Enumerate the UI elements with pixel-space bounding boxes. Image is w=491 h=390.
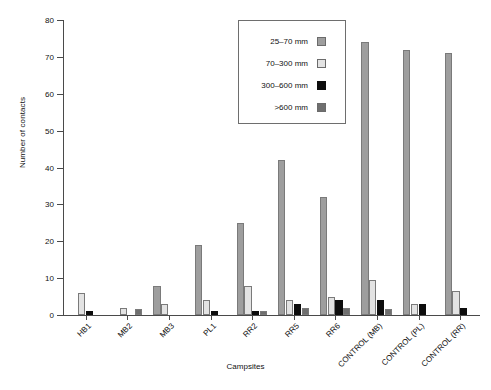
y-axis-tick bbox=[57, 204, 63, 205]
legend-swatch-icon bbox=[317, 103, 326, 112]
legend-swatch-icon bbox=[317, 81, 326, 90]
legend-item-label: >600 mm bbox=[239, 103, 317, 112]
y-axis-tick bbox=[57, 241, 63, 242]
y-axis-tick-label: 70 bbox=[14, 53, 54, 62]
y-axis-tick bbox=[57, 131, 63, 132]
legend-item: 25–70 mm bbox=[239, 30, 345, 52]
y-axis-tick-label: 40 bbox=[14, 164, 54, 173]
bar-group bbox=[445, 20, 476, 315]
y-axis-tick bbox=[57, 168, 63, 169]
bar bbox=[294, 304, 301, 315]
y-axis-tick bbox=[57, 278, 63, 279]
bar-group bbox=[112, 20, 143, 315]
legend-item: 70–300 mm bbox=[239, 52, 345, 74]
legend: 25–70 mm70–300 mm300–600 mm>600 mm bbox=[238, 20, 346, 124]
bar bbox=[419, 304, 426, 315]
bar bbox=[403, 50, 410, 316]
bar bbox=[369, 280, 376, 315]
legend-item-label: 70–300 mm bbox=[239, 59, 317, 68]
legend-item: >600 mm bbox=[239, 96, 345, 118]
bar-group bbox=[403, 20, 434, 315]
bar bbox=[278, 160, 285, 315]
y-axis-tick-label: 60 bbox=[14, 90, 54, 99]
bar bbox=[445, 53, 452, 315]
bar bbox=[335, 300, 342, 315]
y-axis-tick bbox=[57, 57, 63, 58]
bar bbox=[320, 197, 327, 315]
bar-group bbox=[361, 20, 392, 315]
bar bbox=[78, 293, 85, 315]
y-axis-tick-label: 80 bbox=[14, 16, 54, 25]
legend-swatch-icon bbox=[317, 37, 326, 46]
bar bbox=[411, 304, 418, 315]
bar bbox=[361, 42, 368, 315]
bar bbox=[120, 308, 127, 315]
bar-group bbox=[70, 20, 101, 315]
bar-group bbox=[153, 20, 184, 315]
x-axis-title: Campsites bbox=[0, 362, 491, 371]
y-axis-tick bbox=[57, 20, 63, 21]
bar bbox=[161, 304, 168, 315]
legend-item-label: 300–600 mm bbox=[239, 81, 317, 90]
y-axis-tick-label: 20 bbox=[14, 237, 54, 246]
legend-item: 300–600 mm bbox=[239, 74, 345, 96]
y-axis-tick bbox=[57, 94, 63, 95]
legend-item-label: 25–70 mm bbox=[239, 37, 317, 46]
x-axis-tick bbox=[419, 316, 420, 320]
bar bbox=[244, 286, 251, 316]
y-axis-tick bbox=[57, 315, 63, 316]
x-axis-tick bbox=[211, 316, 212, 320]
y-axis-tick-label: 0 bbox=[14, 311, 54, 320]
bar bbox=[328, 297, 335, 315]
y-axis-tick-label: 50 bbox=[14, 127, 54, 136]
bar-group bbox=[195, 20, 226, 315]
bar bbox=[195, 245, 202, 315]
y-axis-tick-label: 10 bbox=[14, 274, 54, 283]
bar bbox=[153, 286, 160, 316]
bar bbox=[237, 223, 244, 315]
bar bbox=[377, 300, 384, 315]
y-axis-tick-label: 30 bbox=[14, 200, 54, 209]
bar bbox=[286, 300, 293, 315]
bar bbox=[203, 300, 210, 315]
legend-swatch-icon bbox=[317, 59, 326, 68]
bar-chart: Number of contacts 01020304050607080 HB1… bbox=[0, 0, 491, 390]
